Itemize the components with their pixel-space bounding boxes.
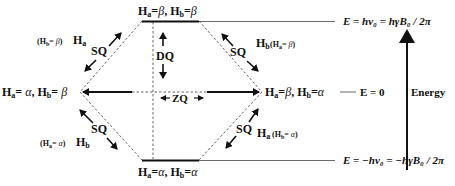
sq-top-left-arrow-up (109, 33, 121, 46)
svg-text:(Ha= β): (Ha= β) (270, 40, 295, 50)
energy-bottom-label: E = −hν₀ = −hγB₀ / 2π (342, 154, 445, 166)
energy-zero-label: E = 0 (360, 86, 385, 98)
sq-bottom-right-label: SQ (236, 122, 252, 136)
level-left-label: Ha= α, Hb= β (2, 85, 67, 100)
svg-text:(Ha= α): (Ha= α) (40, 139, 66, 149)
svg-text:Ha: Ha (257, 126, 270, 141)
level-bottom-label: Ha=α, Hb=α (138, 165, 198, 180)
svg-text:(Hb= α): (Hb= α) (272, 130, 298, 140)
sq-top-right-label: SQ (230, 45, 246, 59)
level-right-label: Ha=β, Hb=α (265, 85, 325, 100)
dq-label: DQ (156, 49, 174, 63)
svg-text:(Hb= β): (Hb= β) (37, 37, 63, 47)
energy-level-diagram: Ha=β, Hb=β Ha= α, Hb= β Ha=β, Hb=α Ha=α,… (0, 0, 455, 186)
sq-bottom-left-label: SQ (91, 122, 107, 136)
svg-text:Hb: Hb (76, 135, 90, 150)
sq-bottom-left-spin: (Ha= α) Hb (40, 135, 90, 150)
sq-bottom-right-arrow-down (226, 136, 236, 148)
energy-top-label: E = hν₀ = hγB₀ / 2π (342, 15, 432, 27)
energy-axis-label: Energy (411, 86, 446, 98)
level-top-label: Ha=β, Hb=β (138, 4, 197, 19)
sq-bottom-left-arrow-down (107, 138, 117, 149)
sq-bottom-right-arrow-up (249, 109, 258, 122)
svg-text:Hb: Hb (256, 36, 270, 51)
svg-text:Ha: Ha (73, 33, 86, 48)
sq-top-right-arrow-down (247, 61, 258, 71)
zq-label: ZQ (172, 92, 188, 104)
sq-top-left-spin: (Hb= β) Ha (37, 33, 86, 48)
sq-bottom-right-spin: Ha (Hb= α) (257, 126, 298, 141)
sq-top-left-label: SQ (91, 44, 107, 58)
dashed-bottom-right (199, 92, 262, 160)
sq-top-left-arrow-down (85, 60, 96, 71)
dashed-top-left (80, 21, 142, 92)
sq-top-right-spin: Hb (Ha= β) (256, 36, 295, 51)
